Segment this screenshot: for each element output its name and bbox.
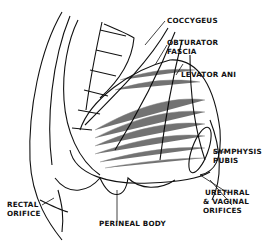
label-perineal-body: PERINEAL BODY [99,220,166,229]
label-obturator-fascia-line2: FASCIA [167,48,197,57]
pelvic-floor-diagram: COCCYGEUS OBTURATOR FASCIA LEVATOR ANI S… [0,0,276,243]
label-urethral-vaginal-line3: ORIFICES [203,207,242,216]
label-levator-ani: LEVATOR ANI [181,71,236,80]
label-coccygeus: COCCYGEUS [167,17,218,26]
label-rectal-orifice-line2: ORIFICE [7,210,41,219]
label-symphysis-pubis-line2: PUBIS [213,157,238,166]
